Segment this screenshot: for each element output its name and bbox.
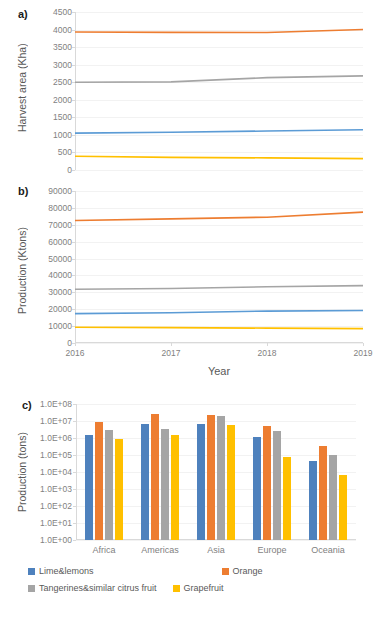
category-label: Africa (76, 546, 132, 554)
y-tick-label: 1.0E+00 (14, 536, 72, 544)
x-tick-label: 2019 (341, 349, 377, 357)
category-label: Europe (244, 546, 300, 554)
x-tick-label: 2018 (245, 349, 289, 357)
legend-swatch-icon (173, 585, 180, 592)
panel-c-legend: Lime&lemonsOrange Tangerines&similar cit… (28, 566, 358, 602)
y-tick-label: 2500 (14, 78, 72, 86)
panel-c-plot-area (76, 404, 356, 540)
line-series (75, 311, 363, 314)
line-series (75, 156, 363, 158)
category-label: Asia (188, 546, 244, 554)
y-tick-label: 1.0E+03 (14, 485, 72, 493)
gridline (75, 170, 363, 171)
legend-item[interactable]: Lime&lemons (28, 566, 94, 576)
bar (95, 422, 104, 540)
y-tick-label: 30000 (14, 288, 72, 296)
legend-item[interactable]: Grapefruit (173, 583, 224, 593)
x-tick-label: 2016 (53, 349, 97, 357)
y-tick-label: 1.0E+08 (14, 400, 72, 408)
y-tick-label: 20000 (14, 305, 72, 313)
y-tick-label: 4000 (14, 26, 72, 34)
y-tick-label: 2000 (14, 96, 72, 104)
panel-c: c) Production (tons) 1.0E+001.0E+011.0E+… (0, 394, 371, 614)
legend-swatch-icon (28, 585, 35, 592)
category-label: Oceania (300, 546, 356, 554)
y-tick-label: 1.0E+06 (14, 434, 72, 442)
panel-a: a) Harvest area (Kha) 050010001500200025… (0, 0, 371, 180)
legend-label: Grapefruit (184, 583, 224, 593)
y-tick-label: 10000 (14, 322, 72, 330)
y-tick-label: 0 (14, 166, 72, 174)
y-tick-label: 50000 (14, 255, 72, 263)
bar (115, 439, 124, 540)
bar (85, 435, 94, 540)
y-tick-label: 1.0E+02 (14, 502, 72, 510)
y-tick-label: 80000 (14, 204, 72, 212)
legend-swatch-icon (28, 568, 35, 575)
gridline (76, 404, 356, 405)
panel-a-plot-area (75, 12, 363, 170)
panel-a-lines (75, 12, 363, 170)
legend-item[interactable]: Orange (222, 566, 263, 576)
legend-item[interactable]: Tangerines&similar citrus fruit (28, 583, 157, 593)
bar (161, 429, 170, 540)
legend-swatch-icon (222, 568, 229, 575)
bar (217, 416, 226, 540)
y-tick-label: 0 (14, 339, 72, 347)
bar (207, 415, 216, 540)
panel-b-plot-area (75, 191, 363, 343)
bar (283, 457, 292, 540)
category-label: Americas (132, 546, 188, 554)
line-series (75, 327, 363, 328)
y-tick-label: 70000 (14, 221, 72, 229)
y-tick-label: 1.0E+05 (14, 451, 72, 459)
panel-b: b) Production (Ktons) 010000200003000040… (0, 183, 371, 378)
figure-caption (4, 616, 367, 624)
bar (197, 424, 206, 540)
panel-b-x-axis-title: Year (75, 365, 363, 377)
x-tick-label: 2017 (149, 349, 193, 357)
line-series (75, 130, 363, 133)
y-tick-label: 4500 (14, 8, 72, 16)
line-series (75, 212, 363, 220)
y-tick-label: 500 (14, 148, 72, 156)
y-tick-label: 90000 (14, 187, 72, 195)
bar (227, 425, 236, 540)
line-series (75, 30, 363, 33)
y-tick-label: 1.0E+07 (14, 417, 72, 425)
legend-label: Lime&lemons (39, 566, 94, 576)
bar (105, 430, 114, 540)
bar (329, 455, 338, 540)
panel-b-lines (75, 191, 363, 343)
bar (273, 431, 282, 540)
y-tick-label: 1.0E+04 (14, 468, 72, 476)
bar (141, 424, 150, 540)
y-tick-label: 60000 (14, 238, 72, 246)
legend-label: Tangerines&similar citrus fruit (39, 583, 157, 593)
gridline (75, 343, 363, 344)
y-tick-label: 3000 (14, 61, 72, 69)
bar (151, 414, 160, 540)
bar (339, 475, 348, 540)
bar (253, 437, 262, 540)
gridline (76, 540, 356, 541)
bar (319, 446, 328, 540)
y-tick-label: 3500 (14, 43, 72, 51)
y-tick-label: 1500 (14, 113, 72, 121)
line-series (75, 286, 363, 290)
bar (263, 426, 272, 540)
y-tick-label: 40000 (14, 271, 72, 279)
bar (171, 435, 180, 540)
legend-label: Orange (233, 566, 263, 576)
y-tick-label: 1.0E+01 (14, 519, 72, 527)
y-tick-label: 1000 (14, 131, 72, 139)
line-series (75, 76, 363, 82)
bar (309, 461, 318, 540)
